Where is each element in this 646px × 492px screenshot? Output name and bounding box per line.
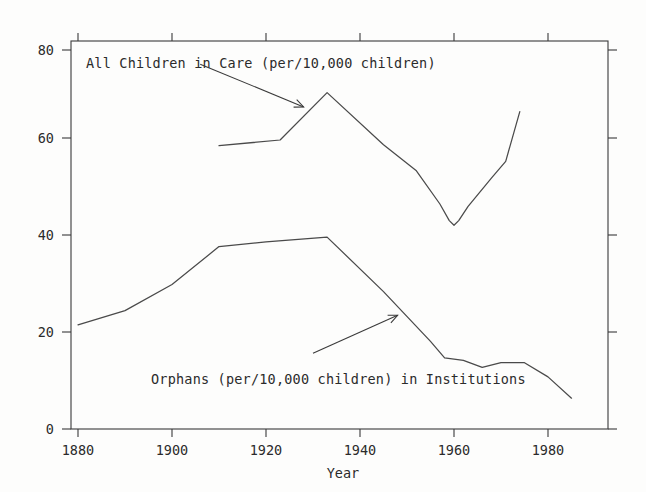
x-axis-ticks-top (78, 33, 548, 41)
x-tick-label-1880: 1880 (62, 442, 95, 458)
y-tick-label-0: 0 (46, 421, 54, 437)
x-tick-label-1940: 1940 (344, 442, 377, 458)
chart-figure: 80 60 40 20 0 1880 1900 1920 1940 1960 1… (0, 0, 646, 492)
x-tick-label-1960: 1960 (438, 442, 471, 458)
x-tick-label-1900: 1900 (156, 442, 189, 458)
y-tick-label-40: 40 (38, 227, 54, 243)
y-axis-ticks (62, 50, 71, 429)
x-axis-ticks (78, 429, 548, 437)
y-tick-label-80: 80 (38, 42, 54, 58)
series-line-all-children-in-care (219, 93, 520, 226)
y-axis-ticks-right (608, 50, 617, 429)
y-tick-label-60: 60 (38, 130, 54, 146)
x-tick-label-1980: 1980 (532, 442, 565, 458)
chart-canvas: 80 60 40 20 0 1880 1900 1920 1940 1960 1… (0, 0, 646, 492)
annotation-label-all-children-in-care: All Children in Care (per/10,000 childre… (86, 55, 436, 71)
x-axis-title: Year (327, 465, 360, 481)
annotation-arrow-line-orphans (313, 315, 398, 353)
y-tick-label-20: 20 (38, 324, 54, 340)
annotation-label-orphans-in-institutions: Orphans (per/10,000 children) in Institu… (151, 371, 526, 387)
x-tick-label-1920: 1920 (250, 442, 283, 458)
